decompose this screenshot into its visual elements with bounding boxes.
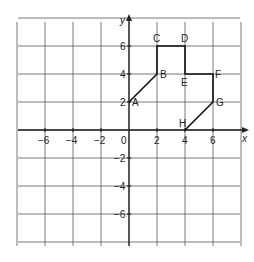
- point-label-h: H: [179, 118, 186, 129]
- point-label-f: F: [215, 69, 221, 80]
- x-tick-label: −2: [94, 135, 106, 146]
- y-tick-label: 4: [120, 69, 126, 80]
- y-tick-label: −6: [114, 209, 126, 220]
- y-axis-arrow-icon: [126, 14, 132, 21]
- x-tick-label: −6: [38, 135, 50, 146]
- shape-path: [129, 46, 213, 130]
- origin-label: 0: [121, 135, 127, 146]
- point-label-a: A: [132, 97, 139, 108]
- y-tick-label: −2: [114, 153, 126, 164]
- y-tick-label: 2: [120, 97, 126, 108]
- x-tick-label: −4: [66, 135, 78, 146]
- point-label-c: C: [153, 33, 160, 44]
- x-tick-label: 2: [154, 135, 160, 146]
- point-label-e: E: [181, 77, 188, 88]
- x-tick-label: 4: [182, 135, 188, 146]
- x-axis-label: x: [241, 133, 248, 144]
- x-tick-label: 6: [210, 135, 216, 146]
- point-label-b: B: [160, 69, 167, 80]
- point-label-g: G: [216, 97, 224, 108]
- y-axis-label: y: [119, 15, 126, 26]
- coordinate-grid: xy0−6−4−2246642−2−4−6ABCDEFGH: [0, 0, 254, 262]
- y-tick-label: −4: [114, 181, 126, 192]
- y-tick-label: 6: [120, 41, 126, 52]
- point-label-d: D: [181, 33, 188, 44]
